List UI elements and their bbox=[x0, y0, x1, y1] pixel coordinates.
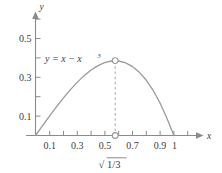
y-tick-labels: 0.1 0.3 0.5 bbox=[19, 33, 32, 122]
equation-label-exponent: 3 bbox=[97, 52, 102, 59]
x-tick-label-0.5: 0.5 bbox=[99, 140, 112, 151]
function-curve bbox=[36, 61, 174, 136]
x-tick-label-0.7: 0.7 bbox=[126, 140, 139, 151]
y-axis-ticks bbox=[36, 19, 41, 116]
equation-label: y = x − x 3 bbox=[44, 52, 102, 65]
x-axis-label: x bbox=[206, 131, 212, 141]
y-axis-arrowhead bbox=[32, 12, 39, 20]
maximum-point-marker bbox=[112, 58, 118, 64]
y-tick-label-0.1: 0.1 bbox=[19, 111, 32, 122]
x-tick-label-0.9: 0.9 bbox=[154, 140, 167, 151]
plot-svg: 0.1 0.3 0.5 0.7 0.9 1 0.1 0.3 0.5 x y y … bbox=[0, 0, 222, 173]
y-tick-label-0.5: 0.5 bbox=[19, 33, 32, 44]
x-axis-arrowhead bbox=[196, 132, 204, 139]
y-axis-label: y bbox=[38, 2, 44, 12]
x-tick-labels: 0.1 0.3 0.5 0.7 0.9 1 bbox=[43, 140, 177, 151]
x-tick-label-0.1: 0.1 bbox=[43, 140, 56, 151]
sqrt-one-third-annotation: √ 1/3 bbox=[99, 158, 127, 170]
x-axis-ticks bbox=[50, 131, 188, 136]
x-tick-label-0.3: 0.3 bbox=[71, 140, 84, 151]
equation-label-text: y = x − x bbox=[44, 53, 82, 64]
y-tick-label-0.3: 0.3 bbox=[19, 72, 32, 83]
radicand-one-third: 1/3 bbox=[107, 159, 120, 170]
radical-sign: √ bbox=[99, 159, 105, 170]
function-plot-figure: 0.1 0.3 0.5 0.7 0.9 1 0.1 0.3 0.5 x y y … bbox=[0, 0, 222, 173]
x-tick-label-1: 1 bbox=[172, 140, 177, 151]
x-axis-root-marker bbox=[112, 133, 118, 139]
